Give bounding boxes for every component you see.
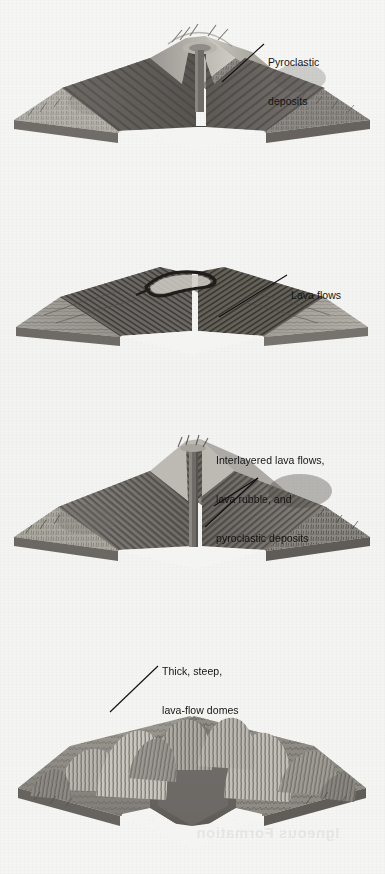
leader-line-lava-flows	[0, 215, 385, 390]
leader-line-pyroclastic	[0, 0, 385, 180]
figure-shield-volcano: Lava flows	[0, 215, 385, 390]
figure-lava-dome-complex: Thick, steep, lava-flow domes	[0, 620, 385, 870]
figure-composite-volcano: Interlayered lava flows, lava rubble, an…	[0, 415, 385, 595]
leader-lines-interlayered	[0, 415, 385, 595]
figure-cinder-cone: Pyroclastic deposits	[0, 0, 385, 180]
leader-line-domes	[0, 620, 385, 870]
